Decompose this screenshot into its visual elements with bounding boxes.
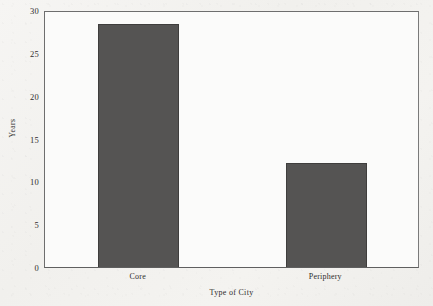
y-axis-title: Years	[8, 120, 17, 138]
x-axis-tick-label: Core	[130, 272, 146, 281]
plot-frame	[44, 11, 419, 268]
y-axis-tick-label: 30	[30, 6, 39, 16]
x-axis-tick-labels: CorePeriphery	[44, 272, 419, 286]
y-axis-tick-label: 5	[35, 220, 39, 230]
y-axis-tick-label: 10	[30, 177, 39, 187]
y-axis-tick-labels: 051015202530	[0, 11, 39, 268]
bar	[286, 163, 367, 268]
y-axis-tick-label: 25	[30, 49, 39, 59]
y-axis-tick-label: 20	[30, 92, 39, 102]
y-axis-tick-label: 15	[30, 135, 39, 145]
bar	[98, 24, 179, 267]
x-axis-tick-label: Periphery	[309, 272, 342, 281]
plot-area	[45, 12, 418, 267]
bar-chart-figure: 051015202530 Years CorePeriphery Type of…	[0, 0, 433, 306]
x-axis-title: Type of City	[44, 288, 419, 297]
y-axis-tick-label: 0	[35, 263, 39, 273]
